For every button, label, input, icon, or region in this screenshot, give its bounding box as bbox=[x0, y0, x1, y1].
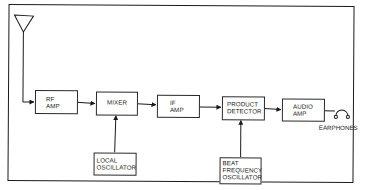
earphones-label: EARPHONES bbox=[319, 124, 358, 131]
rf-amp-label-line2: AMP bbox=[46, 103, 75, 110]
product-detector-block: PRODUCT DETECTOR bbox=[222, 96, 265, 120]
mixer-label: MIXER bbox=[107, 100, 135, 107]
product-detector-label-line2: DETECTOR bbox=[227, 108, 262, 115]
local-oscillator-block: LOCAL OSCILLATOR bbox=[94, 152, 137, 175]
local-oscillator-label-line2: OSCILLATOR bbox=[97, 164, 134, 171]
audio-amp-block: AUDIO AMP bbox=[282, 99, 325, 122]
beat-frequency-oscillator-block: BEAT FREQUENCY OSCILLATOR bbox=[219, 157, 261, 184]
mixer-block: MIXER bbox=[96, 91, 138, 115]
antenna-icon bbox=[14, 15, 34, 102]
rf-amp-block: RF AMP bbox=[35, 90, 78, 114]
if-amp-block: IF AMP bbox=[157, 95, 200, 118]
audio-amp-label-line2: AMP bbox=[293, 110, 322, 117]
if-amp-label-line2: AMP bbox=[170, 107, 197, 114]
earphones-icon bbox=[324, 110, 350, 119]
bfo-label-line3: OSCILLATOR bbox=[222, 174, 258, 181]
block-diagram: RF AMP MIXER IF AMP PRODUCT DETECTOR AUD… bbox=[0, 0, 365, 190]
